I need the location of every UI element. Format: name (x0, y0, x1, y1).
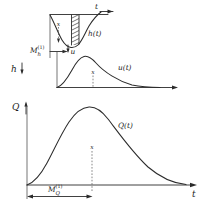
h-t-curve-label: h(t) (88, 29, 102, 38)
technical-figure: x h(t) M h (1) u h (0, 0, 213, 212)
lower-t-arrow-head (190, 183, 197, 188)
upper-t-arrow-head (108, 10, 114, 14)
middle-x-marker-label: x (91, 68, 95, 75)
h-axis-label: h (11, 64, 17, 74)
upper-x-arrowhead (57, 39, 60, 44)
Q-axis-group: Q (12, 102, 28, 115)
Q-axis-arrow-head (24, 102, 27, 107)
Q-axis-label: Q (12, 102, 20, 112)
middle-t-arrow-head (172, 85, 178, 89)
moment-Q-arrow-left (27, 194, 33, 198)
middle-x-marker: x (91, 68, 95, 88)
moment-h-subscript: h (38, 51, 41, 57)
moment-Q-arrow-right (87, 194, 93, 198)
u-arrow-head (66, 49, 69, 54)
moment-Q-subscript: Q (56, 190, 61, 196)
upper-x-marker-label: x (57, 20, 61, 27)
lower-discharge-panel: Q t Q(t) x M Q (1) (12, 102, 197, 200)
lower-t-axis-label: t (192, 189, 196, 199)
u-inflow-label: u (71, 47, 76, 56)
moment-h-arrow-head (63, 50, 68, 54)
Q-t-curve (27, 107, 186, 185)
moment-Q-superscript: (1) (56, 183, 63, 189)
moment-h-superscript: (1) (38, 44, 45, 50)
middle-unit-hydrograph-panel: u(t) x (57, 52, 178, 90)
u-t-curve (57, 56, 160, 87)
h-axis-arrow-head (20, 70, 23, 75)
Q-t-curve-label: Q(t) (118, 121, 133, 130)
lower-x-marker-label: x (90, 143, 94, 150)
h-axis-group: h (11, 63, 24, 75)
upper-t-axis-label: t (95, 2, 98, 11)
u-t-curve-label: u(t) (118, 63, 132, 72)
moment-h-group: M h (1) (29, 44, 68, 57)
u-inflow-group: u (66, 45, 75, 56)
